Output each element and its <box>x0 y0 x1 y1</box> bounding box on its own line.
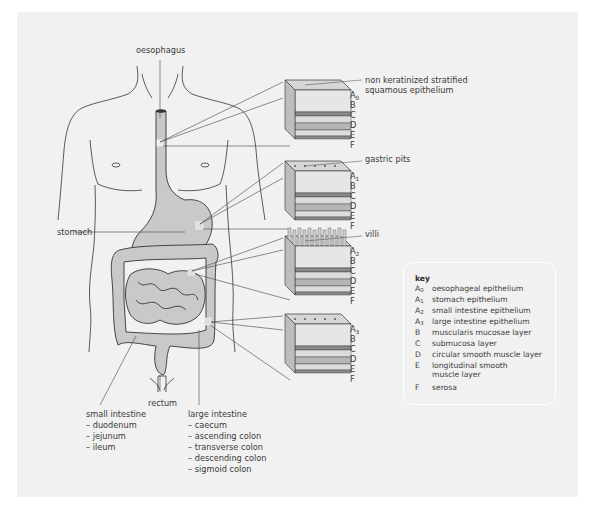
layer-label: B <box>350 181 356 191</box>
tissue-layer <box>295 136 351 139</box>
surface-label: gastric pits <box>365 154 410 164</box>
key-item: A0oesophageal epithelium <box>415 284 523 295</box>
tissue-layer <box>295 268 351 272</box>
pit-opening <box>314 318 316 320</box>
oesophagus-block: A0BCDEFnon keratinized stratifiedsquamou… <box>285 75 468 150</box>
layer-label: F <box>350 374 355 384</box>
key-item-code: E <box>415 361 432 370</box>
layer-label: E <box>350 364 355 374</box>
epithelium-layer <box>295 324 351 346</box>
tissue-layer <box>295 123 351 130</box>
block-side <box>285 80 295 139</box>
layer-label: C <box>350 266 356 276</box>
key-item: A2small intestine epithelium <box>415 306 531 317</box>
layer-label: E <box>350 211 355 221</box>
tissue-layer <box>295 116 351 123</box>
layer-label-subscript: 2 <box>356 251 360 257</box>
tissue-layer <box>295 350 351 357</box>
epithelium-layer <box>295 246 351 268</box>
layer-label: C <box>350 110 356 120</box>
pit-opening <box>294 318 296 320</box>
key-item: A3large intestine epithelium <box>415 317 530 328</box>
block-top-surface <box>285 80 351 90</box>
pit-opening <box>334 318 336 320</box>
large-intestine-part: – caecum <box>188 420 227 430</box>
tissue-layer <box>295 217 351 220</box>
epithelium-layer <box>295 171 351 193</box>
oesophagus-label: oesophagus <box>136 45 185 55</box>
layer-label: C <box>350 191 356 201</box>
layer-label: D <box>350 201 356 211</box>
layer-label: F <box>350 140 355 150</box>
key-item: Fserosa <box>415 383 457 392</box>
key-item-code: A3 <box>415 317 432 328</box>
layer-label: E <box>350 286 355 296</box>
key-legend: key A0oesophageal epitheliumA1stomach ep… <box>403 262 556 405</box>
key-item-description: serosa <box>432 383 457 392</box>
tissue-layer <box>295 211 351 217</box>
pit-opening <box>334 165 336 167</box>
large-intestine-block: A3BCDEF <box>285 314 360 384</box>
small-intestine-part: – ileum <box>86 442 115 452</box>
key-item-description: large intestine epithelium <box>432 317 530 326</box>
tissue-layer <box>295 292 351 295</box>
block-side <box>285 314 295 373</box>
block-side <box>285 161 295 220</box>
key-item-code: A0 <box>415 284 432 295</box>
key-item: Csubmucosa layer <box>415 339 497 348</box>
layer-label: C <box>350 344 356 354</box>
tissue-layer <box>295 130 351 136</box>
stomach-label: stomach <box>57 227 92 237</box>
tissue-layer <box>295 286 351 292</box>
layer-label: B <box>350 334 356 344</box>
layer-label: D <box>350 120 356 130</box>
surface-label: villi <box>365 229 379 239</box>
key-item-description: longitudinal smoothmuscle layer <box>432 361 508 379</box>
small-intestine-block: A2BCDEFvilli <box>285 228 379 306</box>
tissue-layer <box>295 193 351 197</box>
key-item-description: small intestine epithelium <box>432 306 531 315</box>
layer-label: F <box>350 296 355 306</box>
layer-label-subscript: 3 <box>356 329 360 335</box>
key-item: A1stomach epithelium <box>415 295 508 306</box>
small-intestine-title: small intestine <box>86 409 146 419</box>
layer-label: F <box>350 221 355 231</box>
layer-label: B <box>350 256 356 266</box>
digestive-tract-diagram: A0BCDEFnon keratinized stratifiedsquamou… <box>0 0 595 514</box>
small-intestine-label: small intestine – duodenum – jejunum – i… <box>86 409 146 452</box>
pit-opening <box>294 165 296 167</box>
large-intestine-part: – transverse colon <box>188 442 263 452</box>
pit-opening <box>324 165 326 167</box>
small-intestine-shape <box>126 268 212 325</box>
stomach-block: A1BCDEFgastric pits <box>285 154 410 231</box>
layer-label-subscript: 0 <box>356 95 360 101</box>
surface-label: non keratinized stratified <box>365 75 468 85</box>
key-item-code: C <box>415 339 432 348</box>
pit-opening <box>304 318 306 320</box>
key-item-code: F <box>415 383 432 392</box>
small-intestine-part: – jejunum <box>86 431 126 441</box>
layer-label: D <box>350 354 356 364</box>
large-intestine-part: – sigmoid colon <box>188 464 251 474</box>
tissue-layer <box>295 357 351 364</box>
key-item: Dcircular smooth muscle layer <box>415 350 542 359</box>
key-item-description: submucosa layer <box>432 339 497 348</box>
key-item-code: A1 <box>415 295 432 306</box>
surface-label: squamous epithelium <box>365 85 453 95</box>
layer-label: D <box>350 276 356 286</box>
tissue-layer <box>295 204 351 211</box>
tissue-layer <box>295 346 351 350</box>
tissue-layer <box>295 112 351 116</box>
key-item-description: muscularis mucosae layer <box>432 328 531 337</box>
oesophagus-stomach-shape <box>132 109 212 268</box>
tissue-layer <box>295 272 351 279</box>
tissue-layer <box>295 279 351 286</box>
epithelium-layer <box>295 90 351 112</box>
key-title: key <box>415 274 430 283</box>
key-item-description: stomach epithelium <box>432 295 508 304</box>
pit-opening <box>324 318 326 320</box>
key-item-description: circular smooth muscle layer <box>432 350 542 359</box>
tissue-layer <box>295 370 351 373</box>
large-intestine-label: large intestine – caecum – ascending col… <box>188 409 266 474</box>
key-item: Bmuscularis mucosae layer <box>415 328 531 337</box>
